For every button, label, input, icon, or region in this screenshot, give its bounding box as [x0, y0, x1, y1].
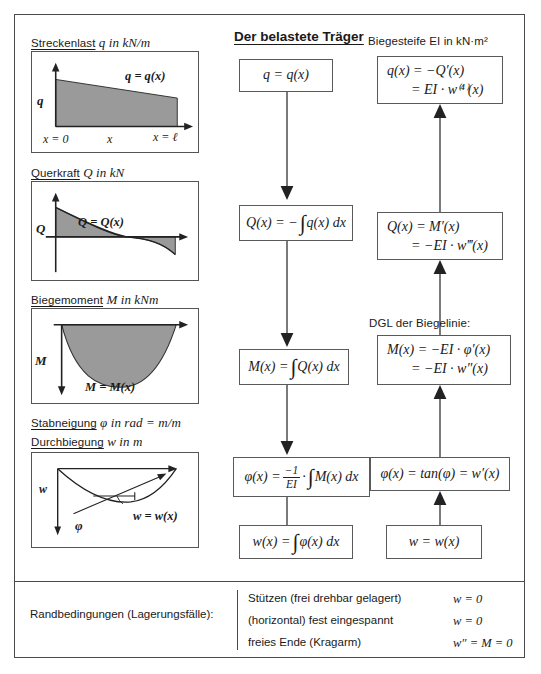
shear-force-y-label: Q	[36, 221, 45, 237]
distributed-load-x0: x = 0	[43, 132, 68, 147]
slope-equation-lhs: φ(x) =	[244, 468, 280, 487]
moment-equation-lhs: M(x) =	[248, 358, 288, 377]
moment-differential-box: M(x) = −EI · φ′(x) = −EI · w″(x)	[377, 335, 511, 385]
slope-equation-box: φ(x) = −1EI·∫M(x) dx	[233, 457, 370, 497]
deflection-y-label: w	[39, 482, 47, 497]
moment-differential-line2: = −EI · w″(x)	[387, 360, 502, 379]
label-stabneigung-unit: φ in rad = m/m	[97, 415, 181, 430]
label-stabneigung-word: Stabneigung	[31, 417, 97, 429]
label-stabneigung: Stabneigung φ in rad = m/m	[31, 415, 181, 431]
label-biegemoment: Biegemoment M in kNm	[31, 292, 158, 308]
label-dgl-biegelinie: DGL der Biegelinie:	[369, 317, 470, 329]
boundary-conditions-divider	[237, 590, 238, 650]
label-biegemoment-word: Biegemoment	[31, 294, 103, 306]
boundary-condition-1: w″ = M = 0	[453, 636, 513, 651]
shear-force-curve-label: Q = Q(x)	[78, 215, 124, 230]
slope-dot: ·	[302, 468, 306, 487]
distributed-load-y-label: q	[37, 93, 44, 109]
moment-equation-integrand: Q(x) dx	[297, 358, 339, 377]
shear-force-diagram	[31, 181, 199, 281]
label-streckenlast: Streckenlast q in kN/m	[31, 35, 150, 51]
slope-fraction-denominator: EI	[283, 478, 300, 490]
load-equation-box: q = q(x)	[239, 59, 333, 92]
distributed-load-curve-label: q = q(x)	[125, 69, 165, 84]
deflection-angle-label: φ	[75, 518, 83, 534]
page-title: Der belastete Träger	[234, 29, 364, 44]
table-row: (horizontal) fest eingespannt w = 0 w′ =…	[248, 614, 518, 634]
diagram-sheet: Der belastete Träger Streckenlast q in k…	[14, 14, 525, 658]
boundary-case-name: Stützen (frei drehbar gelagert)	[248, 592, 401, 604]
arrow-deflection-to-slope-diff	[433, 491, 447, 525]
deflection-diagram	[31, 452, 199, 548]
label-querkraft: Querkraft Q in kN	[31, 165, 124, 181]
label-durchbiegung: Durchbiegung w in m	[31, 434, 142, 450]
deflection-equation-lhs: w(x) =	[253, 533, 291, 552]
arrow-shear-to-moment	[280, 241, 294, 349]
slope-equation-integrand: M(x) dx	[315, 468, 359, 487]
boundary-case-name: (horizontal) fest eingespannt	[248, 614, 393, 626]
boundary-condition-1: w = 0	[453, 592, 482, 607]
moment-equation-box: M(x) = ∫Q(x) dx	[239, 349, 349, 385]
shear-equation-box: Q(x) = −∫q(x) dx	[239, 205, 353, 241]
label-durchbiegung-word: Durchbiegung	[31, 436, 104, 448]
label-biegesteife-text: Biegesteife EI in kN·m²	[368, 35, 488, 47]
distributed-load-xl: x = ℓ	[153, 130, 177, 145]
label-querkraft-word: Querkraft	[31, 167, 80, 179]
label-streckenlast-unit: q in kN/m	[95, 35, 150, 50]
boundary-conditions-label: Randbedingungen (Lagerungsfälle):	[30, 608, 214, 620]
slope-differential-line1: φ(x) = tan(φ) = w′(x)	[380, 465, 499, 484]
label-streckenlast-word: Streckenlast	[31, 37, 95, 49]
boundary-condition-1: w = 0	[453, 614, 482, 629]
shear-differential-line2: = −EI · w‴(x)	[387, 237, 494, 256]
shear-equation-lhs: Q(x) = −	[246, 214, 298, 233]
load-equation-text: q = q(x)	[263, 66, 309, 85]
arrow-load-to-shear	[280, 92, 294, 202]
distributed-load-xmid: x	[107, 132, 112, 147]
bending-moment-y-label: M	[35, 353, 47, 369]
table-row: freies Ende (Kragarm) w″ = M = 0 w‴ = Q …	[248, 636, 518, 656]
slope-differential-box: φ(x) = tan(φ) = w′(x)	[370, 457, 510, 491]
boundary-case-name: freies Ende (Kragarm)	[248, 636, 361, 648]
arrow-moment-diff-to-shear-diff	[433, 260, 447, 344]
load-differential-line2: = EI · w⁽⁴⁾(x)	[387, 81, 494, 100]
table-row: Stützen (frei drehbar gelagert) w = 0 w″…	[248, 592, 518, 612]
shear-differential-box: Q(x) = M′(x) = −EI · w‴(x)	[377, 212, 503, 260]
shear-differential-line1: Q(x) = M′(x)	[387, 218, 494, 237]
deflection-equation-box: w(x) = ∫φ(x) dx	[239, 525, 353, 559]
bending-moment-curve-label: M = M(x)	[85, 380, 135, 395]
deflection-function-box: w = w(x)	[386, 525, 482, 559]
load-differential-box: q(x) = −Q′(x) = EI · w⁽⁴⁾(x)	[377, 56, 503, 104]
label-biegesteife: Biegesteife EI in kN·m²	[368, 35, 488, 47]
deflection-curve-label: w = w(x)	[133, 509, 178, 524]
slope-fraction: −1EI	[283, 464, 300, 489]
deflection-equation-integrand: φ(x) dx	[299, 533, 339, 552]
slope-fraction-numerator: −1	[283, 464, 300, 477]
deflection-svg	[32, 453, 198, 547]
arrow-slope-diff-to-moment-diff	[433, 385, 447, 457]
moment-differential-line1: M(x) = −EI · φ′(x)	[387, 341, 502, 360]
shear-force-svg	[32, 182, 198, 280]
label-biegemoment-unit: M in kNm	[103, 292, 158, 307]
label-durchbiegung-unit: w in m	[104, 434, 143, 449]
load-differential-line1: q(x) = −Q′(x)	[387, 62, 494, 81]
shear-equation-integrand: q(x) dx	[307, 214, 346, 233]
arrow-shear-diff-to-load-diff	[433, 104, 447, 212]
arrow-moment-to-slope	[280, 385, 294, 457]
deflection-function-line1: w = w(x)	[409, 533, 460, 552]
label-querkraft-unit: Q in kN	[80, 165, 125, 180]
boundary-conditions-block: Randbedingungen (Lagerungsfälle): Stütze…	[15, 581, 524, 657]
